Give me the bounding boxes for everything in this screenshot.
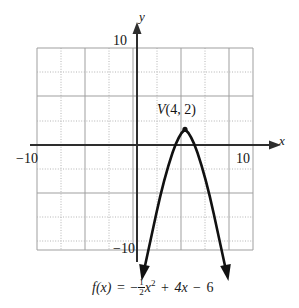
leading-minus-sign: − (130, 280, 138, 295)
x-axis-tick-label-minus10: −10 (16, 152, 38, 166)
x-squared-exponent: 2 (151, 278, 156, 288)
second-minus-sign: − (193, 280, 201, 295)
function-name: f(x) (92, 280, 111, 295)
y-axis (133, 22, 142, 262)
parabola-curve (139, 127, 231, 281)
curve-right-arrow-icon (220, 264, 231, 281)
y-axis-tick-label-10: 10 (113, 34, 127, 48)
equals-sign: = (117, 280, 125, 295)
x-axis-tick-label-10: 10 (236, 152, 250, 166)
constant-term: 6 (207, 280, 214, 295)
y-axis-tick-label-minus10: −10 (113, 242, 135, 256)
vertex-symbol: V (157, 102, 166, 117)
y-axis-label: y (139, 10, 145, 23)
vertex-point (182, 127, 187, 132)
x-axis-label: x (279, 134, 285, 147)
vertex-coordinates: (4, 2) (166, 102, 196, 117)
vertex-label: V(4, 2) (157, 103, 196, 117)
parabola-graph-figure: y x 10 −10 −10 10 V(4, 2) f(x) = −12x2 +… (0, 0, 299, 308)
grid-lines (37, 48, 253, 250)
coordinate-plane-svg (0, 0, 299, 308)
x-axis (30, 141, 281, 150)
function-equation-label: f(x) = −12x2 + 4x − 6 (92, 278, 214, 298)
plus-sign: + (161, 280, 169, 295)
linear-term: 4x (174, 280, 187, 295)
